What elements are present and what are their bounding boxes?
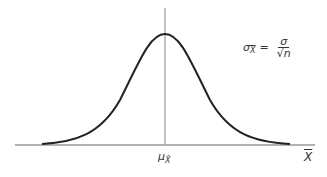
fraction: σ √n [277,36,291,59]
denominator: √n [277,48,291,59]
mu-subscript: X̄ [165,156,170,165]
sigma-symbol: σ [243,41,250,54]
mu-symbol: μ [158,150,165,163]
std-error-formula: σX̄ = σ √n [243,36,291,59]
sigma-subscript: X̄ [250,46,255,55]
equals-sign: = [259,41,268,54]
x-axis-label: X [304,150,312,164]
mean-label: μX̄ [158,150,170,163]
